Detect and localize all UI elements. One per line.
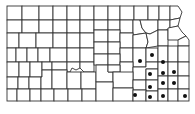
county [168, 46, 178, 62]
county [27, 48, 38, 62]
county [96, 82, 113, 101]
county [148, 6, 159, 20]
county [158, 46, 168, 62]
county [80, 33, 94, 48]
county [7, 62, 19, 77]
occurrence-marker [133, 93, 137, 97]
county [120, 33, 133, 48]
county [41, 89, 54, 101]
county [7, 48, 16, 62]
occurrence-marker [183, 94, 187, 98]
county [29, 77, 41, 89]
county [36, 33, 53, 48]
county [41, 70, 52, 89]
county [94, 20, 108, 30]
county [53, 33, 67, 48]
county [108, 54, 120, 65]
county [7, 6, 22, 20]
county [18, 77, 29, 89]
occurrence-marker [161, 60, 165, 64]
occurrence-marker [138, 59, 142, 63]
county [108, 20, 120, 30]
county [134, 6, 148, 20]
county [113, 72, 133, 88]
county [22, 6, 39, 20]
county [19, 62, 30, 77]
county [113, 88, 133, 101]
occurrence-marker [148, 72, 152, 76]
kansas-county-map [0, 0, 195, 114]
county [158, 30, 168, 46]
county [67, 48, 80, 62]
county [19, 33, 36, 48]
county [94, 42, 108, 54]
county [68, 89, 82, 101]
county [120, 20, 133, 33]
county [80, 62, 94, 72]
county [94, 30, 108, 42]
occurrence-marker [148, 95, 152, 99]
county [30, 62, 42, 77]
county [52, 62, 67, 70]
county [108, 42, 120, 54]
occurrence-marker [148, 85, 152, 89]
county [159, 6, 170, 20]
county [7, 33, 19, 48]
county [67, 72, 81, 89]
county [178, 62, 189, 76]
occurrence-marker [161, 94, 165, 98]
county-grid [7, 6, 189, 101]
county [146, 91, 158, 101]
county [7, 77, 18, 89]
county [16, 48, 27, 62]
county [22, 20, 39, 33]
county [120, 6, 134, 20]
occurrence-marker [150, 53, 154, 57]
county [108, 65, 120, 72]
county [80, 20, 94, 33]
county [67, 20, 80, 33]
county [81, 72, 96, 89]
county [94, 6, 108, 20]
county [67, 6, 80, 20]
county [178, 76, 189, 89]
county [54, 89, 68, 101]
county [108, 30, 120, 42]
county [178, 46, 189, 62]
county [82, 89, 96, 101]
county [38, 48, 50, 62]
county [30, 89, 41, 101]
county [7, 89, 17, 101]
occurrence-marker [161, 71, 165, 75]
county [42, 62, 52, 70]
county [146, 80, 158, 91]
county [80, 6, 94, 20]
county [146, 69, 158, 80]
county [17, 89, 30, 101]
county [133, 33, 148, 48]
county [53, 20, 67, 33]
county [108, 6, 120, 20]
county [80, 48, 94, 62]
county [94, 54, 108, 65]
county [133, 80, 146, 90]
county [39, 6, 53, 20]
county [133, 48, 146, 67]
occurrence-marker [172, 70, 176, 74]
occurrence-marker [161, 81, 165, 85]
county [53, 6, 67, 20]
county [67, 62, 80, 72]
county [7, 20, 22, 33]
county [52, 70, 67, 89]
county [50, 48, 67, 62]
county [120, 48, 133, 62]
county [67, 33, 80, 48]
county [168, 89, 178, 101]
county [39, 20, 53, 33]
county [168, 62, 178, 76]
occurrence-marker [172, 81, 176, 85]
